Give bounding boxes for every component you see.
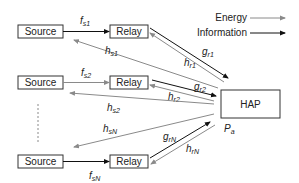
label-grN: grN bbox=[163, 131, 177, 143]
label-hsN: hsN bbox=[103, 123, 118, 135]
legend-energy-label: Energy bbox=[215, 12, 247, 23]
label-gr1: gr1 bbox=[202, 46, 214, 58]
link-hsN bbox=[74, 114, 214, 147]
relay-node-n-label: Relay bbox=[116, 156, 142, 167]
label-hrN: hrN bbox=[186, 143, 200, 155]
label-pa: Pa bbox=[224, 123, 235, 135]
link-hrN bbox=[151, 125, 215, 164]
row-1: Source Relay fs1 bbox=[18, 15, 148, 38]
link-hs2 bbox=[70, 93, 214, 104]
legend-information-label: Information bbox=[197, 27, 247, 38]
legend: Energy Information bbox=[197, 12, 285, 38]
label-hs1: hs1 bbox=[105, 45, 118, 57]
hap-node-label: HAP bbox=[240, 99, 261, 110]
label-hr1: hr1 bbox=[184, 57, 196, 69]
label-fs1: fs1 bbox=[80, 15, 90, 27]
relay-network-diagram: Energy Information Source Relay fs1 Sour… bbox=[0, 0, 299, 183]
label-hs2: hs2 bbox=[107, 102, 120, 114]
source-node-n-label: Source bbox=[25, 156, 57, 167]
label-fsN: fsN bbox=[89, 170, 101, 182]
row-n: Source Relay fsN bbox=[18, 155, 148, 182]
label-fs2: fs2 bbox=[81, 67, 91, 79]
relay-node-1-label: Relay bbox=[116, 26, 142, 37]
row-2: Source Relay fs2 bbox=[18, 67, 148, 89]
source-node-2-label: Source bbox=[25, 77, 57, 88]
label-gr2: gr2 bbox=[194, 81, 206, 93]
relay-node-2-label: Relay bbox=[116, 77, 142, 88]
source-node-1-label: Source bbox=[25, 26, 57, 37]
